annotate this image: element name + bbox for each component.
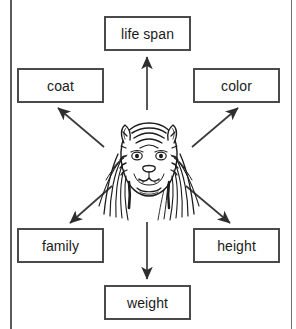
node-label-life-span: life span [121,27,174,41]
tiger-head-in-grass-icon [96,110,202,222]
node-box-life-span[interactable]: life span [104,16,191,51]
node-label-height: height [217,239,256,253]
diagram-page: life span coat color family height weigh… [0,0,296,329]
node-box-height[interactable]: height [193,228,280,263]
node-label-weight: weight [127,296,168,310]
tiger-head-illustration [96,110,202,222]
node-box-coat[interactable]: coat [17,68,104,103]
node-box-color[interactable]: color [193,68,280,103]
node-label-family: family [42,239,79,253]
node-label-coat: coat [47,79,74,93]
node-label-color: color [221,79,252,93]
node-box-family[interactable]: family [17,228,104,263]
node-box-weight[interactable]: weight [104,285,191,320]
